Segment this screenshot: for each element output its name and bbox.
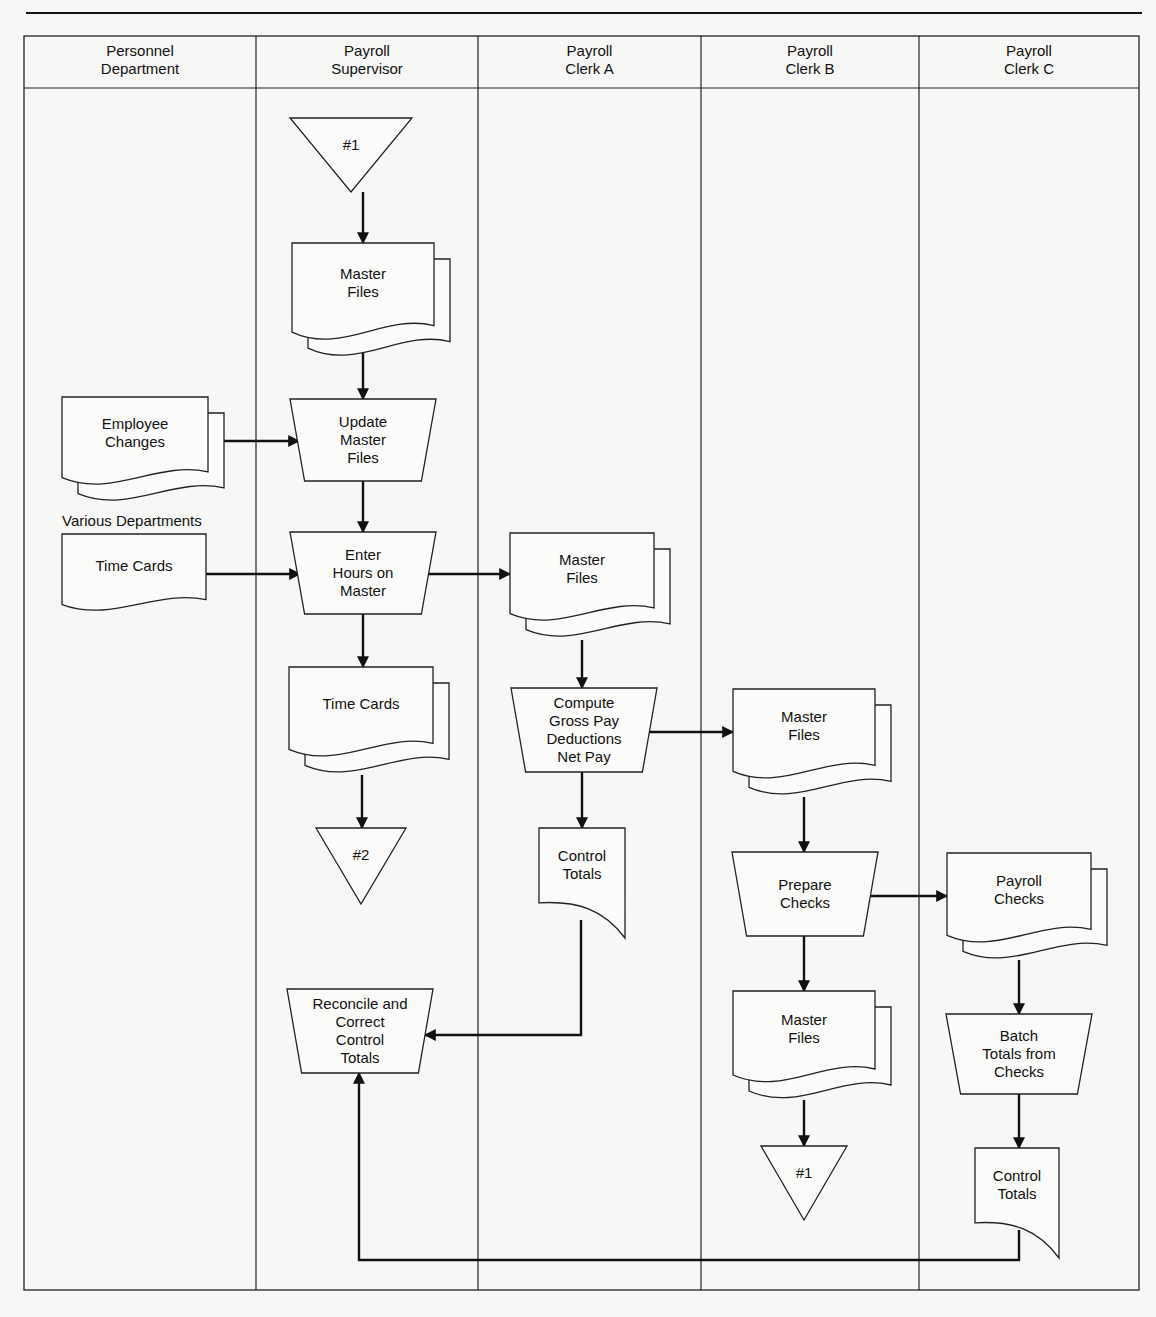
node-label: ControlTotals (558, 847, 606, 882)
lane-header-clerkC: PayrollClerk C (1004, 42, 1054, 77)
node-batch-totals: BatchTotals fromChecks (946, 1014, 1092, 1094)
node-update-master-files: UpdateMasterFiles (290, 399, 436, 481)
annotations: Various Departments (62, 512, 202, 529)
node-label: ComputeGross PayDeductionsNet Pay (546, 694, 621, 765)
node-enter-hours: EnterHours onMaster (290, 532, 436, 614)
node-label: Time Cards (323, 695, 400, 712)
annotation-various-departments: Various Departments (62, 512, 202, 529)
node-master-files-3: MasterFiles (733, 689, 891, 794)
node-reconcile: Reconcile andCorrectControlTotals (287, 989, 433, 1073)
lane-header-personnel: PersonnelDepartment (101, 42, 180, 77)
node-control-totals-c: ControlTotals (975, 1148, 1059, 1258)
node-label: EmployeeChanges (102, 415, 169, 450)
node-label: #1 (343, 136, 360, 153)
node-conn2: #2 (316, 828, 406, 904)
node-payroll-checks: PayrollChecks (947, 853, 1107, 958)
node-prepare-checks: PrepareChecks (732, 852, 878, 936)
node-time-cards-sup: Time Cards (289, 667, 449, 772)
payroll-swimlane-flowchart: PersonnelDepartmentPayrollSupervisorPayr… (0, 0, 1156, 1317)
node-label: PayrollChecks (994, 872, 1044, 907)
flow-nodes: #1MasterFilesEmployeeChangesUpdateMaster… (62, 118, 1107, 1258)
node-employee-changes: EmployeeChanges (62, 397, 224, 500)
edge-control-totals-a-to-reconcile (425, 920, 581, 1035)
edge-control-totals-c-to-reconcile (359, 1073, 1019, 1260)
node-label: #1 (796, 1164, 813, 1181)
node-conn1-top: #1 (290, 118, 412, 192)
node-label: #2 (353, 846, 370, 863)
node-master-files-1: MasterFiles (292, 243, 450, 355)
node-time-cards-in: Time Cards (62, 534, 206, 610)
node-label: PrepareChecks (778, 876, 831, 911)
node-master-files-4: MasterFiles (733, 991, 891, 1098)
node-conn1-bottom: #1 (761, 1146, 847, 1220)
lane-header-clerkB: PayrollClerk B (785, 42, 834, 77)
node-label: ControlTotals (993, 1167, 1041, 1202)
node-label: Time Cards (96, 557, 173, 574)
lane-header-supervisor: PayrollSupervisor (331, 42, 403, 77)
node-master-files-2: MasterFiles (510, 533, 670, 636)
node-compute-gross-pay: ComputeGross PayDeductionsNet Pay (511, 688, 657, 772)
lane-header-clerkA: PayrollClerk A (565, 42, 613, 77)
